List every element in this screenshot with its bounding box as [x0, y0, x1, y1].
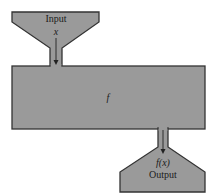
- function-machine-diagram: Input x f f(x) Output: [0, 0, 217, 196]
- input-variable: x: [53, 26, 59, 37]
- input-label: Input: [45, 13, 66, 24]
- output-expression: f(x): [156, 157, 171, 169]
- output-label: Output: [149, 169, 177, 180]
